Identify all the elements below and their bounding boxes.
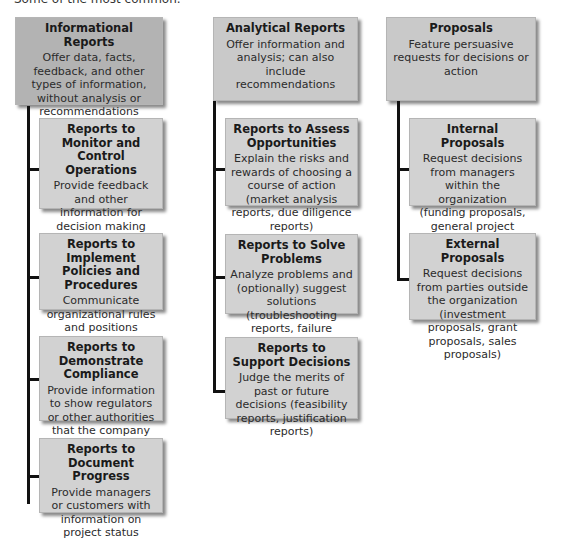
box-description: Offer data, facts, feedback, and other t… (20, 51, 158, 119)
connector-line (27, 276, 39, 279)
analytical-reports-box: Analytical Reports Offer information and… (213, 17, 358, 101)
support-decisions-box: Reports to Support Decisions Judge the m… (225, 337, 358, 419)
box-title: External Proposals (414, 238, 531, 265)
internal-proposals-box: Internal Proposals Request decisions fro… (409, 118, 536, 206)
connector-line (397, 101, 400, 281)
connector-line (213, 276, 225, 279)
box-title: Informational Reports (20, 22, 158, 49)
proposals-box: Proposals Feature persuasive requests fo… (386, 17, 536, 101)
connector-line (397, 278, 409, 281)
box-title: Proposals (391, 22, 531, 36)
monitor-control-box: Reports to Monitor and Control Operation… (39, 118, 163, 209)
informational-reports-box: Informational Reports Offer data, facts,… (15, 17, 163, 105)
box-title: Reports to Implement Policies and Proced… (44, 238, 158, 292)
connector-line (27, 106, 30, 504)
demonstrate-compliance-box: Reports to Demonstrate Compliance Provid… (39, 336, 163, 421)
connector-line (213, 390, 225, 393)
box-title: Reports to Monitor and Control Operation… (44, 123, 158, 177)
box-title: Reports to Demonstrate Compliance (44, 341, 158, 382)
document-progress-box: Reports to Document Progress Provide man… (39, 438, 163, 513)
box-description: Judge the merits of past or future decis… (230, 371, 353, 439)
box-description: Offer information and analysis; can also… (218, 38, 353, 92)
connector-line (27, 168, 39, 171)
external-proposals-box: External Proposals Request decisions fro… (409, 233, 536, 320)
box-description: Provide managers or customers with infor… (44, 486, 158, 540)
box-title: Reports to Solve Problems (230, 239, 353, 266)
connector-line (213, 168, 225, 171)
connector-line (213, 101, 216, 393)
connector-line (27, 475, 39, 478)
box-description: Request decisions from parties outside t… (414, 267, 531, 362)
box-description: Explain the risks and rewards of choosin… (230, 152, 353, 233)
connector-line (397, 168, 409, 171)
box-title: Reports to Document Progress (44, 443, 158, 484)
box-title: Internal Proposals (414, 123, 531, 150)
intro-text-cut: Some of the most common. (14, 0, 181, 6)
box-title: Reports to Assess Opportunities (230, 123, 353, 150)
box-title: Reports to Support Decisions (230, 342, 353, 369)
box-description: Feature persuasive requests for decision… (391, 38, 531, 79)
solve-problems-box: Reports to Solve Problems Analyze proble… (225, 234, 358, 314)
implement-policies-box: Reports to Implement Policies and Proced… (39, 233, 163, 310)
assess-opportunities-box: Reports to Assess Opportunities Explain … (225, 118, 358, 206)
connector-line (27, 378, 39, 381)
box-title: Analytical Reports (218, 22, 353, 36)
